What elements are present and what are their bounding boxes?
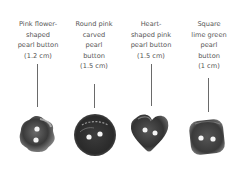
round-button-image — [72, 112, 118, 158]
button-label: Heart- shaped pink pearl button (1.5 cm) — [121, 19, 181, 61]
pointer-line — [151, 64, 152, 106]
label-line: (1.5 cm) — [121, 51, 181, 62]
label-line: button — [64, 51, 124, 62]
label-line: Square — [179, 19, 239, 30]
label-line: pearl button — [8, 40, 68, 51]
label-line: pearl — [179, 40, 239, 51]
button-label: Round pink carved pearl button (1.5 cm) — [64, 19, 124, 72]
label-line: button — [179, 51, 239, 62]
button-item-heart: Heart- shaped pink pearl button (1.5 cm) — [121, 0, 181, 171]
button-label: Pink flower- shaped pearl button (1.2 cm… — [8, 19, 68, 61]
label-line: pearl — [64, 40, 124, 51]
label-line: Round pink — [64, 19, 124, 30]
label-line: Heart- — [121, 19, 181, 30]
pointer-line — [208, 78, 209, 112]
button-item-flower: Pink flower- shaped pearl button (1.2 cm… — [8, 0, 68, 171]
label-line: shaped — [8, 30, 68, 41]
label-line: carved — [64, 30, 124, 41]
flower-button-image — [16, 113, 58, 155]
button-item-round: Round pink carved pearl button (1.5 cm) — [64, 0, 124, 171]
button-item-square: Square lime green pearl button (1 cm) — [179, 0, 239, 171]
label-line: Pink flower- — [8, 19, 68, 30]
label-line: pearl button — [121, 40, 181, 51]
label-line: shaped pink — [121, 30, 181, 41]
button-label: Square lime green pearl button (1 cm) — [179, 19, 239, 72]
pointer-line — [94, 84, 95, 108]
label-line: (1 cm) — [179, 61, 239, 72]
heart-button-image — [128, 110, 172, 154]
square-button-image — [187, 117, 227, 157]
label-line: (1.5 cm) — [64, 61, 124, 72]
label-line: lime green — [179, 30, 239, 41]
label-line: (1.2 cm) — [8, 51, 68, 62]
pointer-line — [37, 64, 38, 107]
